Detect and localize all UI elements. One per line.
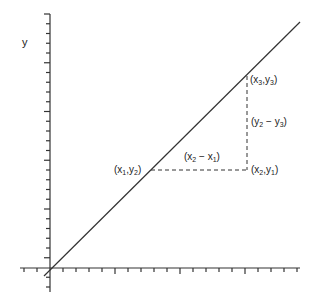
point-label-x1-y2: (x1,y2) — [114, 164, 141, 176]
y-axis-ticks — [44, 14, 50, 287]
x-axis-ticks — [24, 268, 297, 274]
point-label-x2-y1: (x2,y1) — [251, 164, 278, 176]
y-axis-label: y — [22, 36, 28, 48]
y-axis — [44, 14, 50, 292]
point-label-x3-y3: (x3,y3) — [250, 74, 277, 86]
function-line — [44, 22, 300, 276]
x-axis — [20, 268, 300, 274]
run-label: (x2 − x1) — [184, 151, 220, 163]
slope-diagram: y (x1,y2) (x2 − x1) (x2,y1) (x3,y3) (y2 … — [0, 0, 318, 302]
rise-label: (y2 − y3) — [251, 116, 287, 128]
